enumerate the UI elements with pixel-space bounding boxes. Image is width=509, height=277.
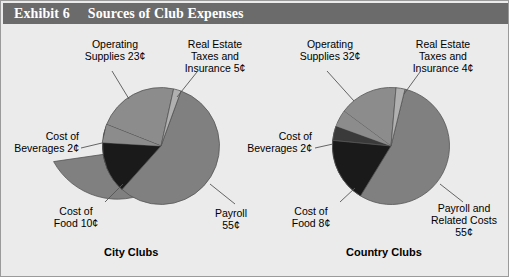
label-line: Supplies 23¢ [63, 50, 167, 62]
label-line: 55¢ [203, 219, 259, 231]
label-line: Cost of [39, 205, 113, 217]
label-line: Taxes and [396, 50, 490, 62]
label-cost-of-food: Cost ofFood 8¢ [276, 205, 346, 229]
pie-chart-country-clubs: OperatingSupplies 32¢ Real EstateTaxes a… [254, 24, 507, 276]
label-cost-of-beverages: Cost ofBeverages 2¢ [0, 130, 79, 154]
leader-line-real-estate [404, 72, 420, 94]
label-line: Payroll [203, 207, 259, 219]
exhibit-number: Exhibit 6 [14, 6, 70, 22]
label-line: Insurance 5¢ [169, 62, 261, 74]
label-line: 55¢ [422, 226, 506, 238]
label-operating-supplies: OperatingSupplies 32¢ [278, 38, 382, 62]
leader-line-operating-supplies [327, 71, 354, 101]
label-line: Supplies 32¢ [278, 50, 382, 62]
label-real-estate-taxes: Real EstateTaxes andInsurance 5¢ [169, 38, 261, 75]
label-line: Operating [63, 38, 167, 50]
label-line: Cost of [0, 130, 79, 142]
label-cost-of-food: Cost ofFood 10¢ [39, 205, 113, 229]
label-line: Operating [278, 38, 382, 50]
label-line: Related Costs [422, 214, 506, 226]
leader-line-food [340, 188, 355, 202]
label-payroll: Payroll55¢ [203, 207, 259, 231]
caption-city-clubs: City Clubs [104, 246, 158, 258]
label-line: Payroll and [422, 202, 506, 214]
charts-container: OperatingSupplies 23¢ Real EstateTaxes a… [1, 24, 508, 276]
leader-line-payroll [210, 184, 235, 204]
label-line: Food 8¢ [276, 217, 346, 229]
label-cost-of-beverages: Cost ofBeverages 2¢ [226, 130, 312, 154]
label-line: Beverages 2¢ [0, 142, 79, 154]
label-line: Cost of [276, 205, 346, 217]
exhibit-title: Sources of Club Expenses [88, 6, 244, 22]
label-real-estate-taxes: Real EstateTaxes andInsurance 4¢ [396, 38, 490, 75]
pie-chart-city-clubs: OperatingSupplies 23¢ Real EstateTaxes a… [1, 24, 254, 276]
label-line: Taxes and [169, 50, 261, 62]
label-line: Real Estate [169, 38, 261, 50]
leader-line-beverages [315, 144, 333, 148]
label-payroll-related-costs: Payroll andRelated Costs55¢ [422, 202, 506, 239]
label-operating-supplies: OperatingSupplies 23¢ [63, 38, 167, 62]
label-line: Cost of [226, 130, 312, 142]
exhibit-figure: Exhibit 6 Sources of Club Expenses [0, 0, 509, 277]
leader-line-payroll [440, 184, 463, 202]
label-line: Food 10¢ [39, 217, 113, 229]
label-line: Beverages 2¢ [226, 142, 312, 154]
caption-country-clubs: Country Clubs [346, 246, 422, 258]
exhibit-header-bar: Exhibit 6 Sources of Club Expenses [3, 3, 508, 24]
leader-line-operating-supplies [112, 71, 129, 99]
label-line: Insurance 4¢ [396, 62, 490, 74]
label-line: Real Estate [396, 38, 490, 50]
leader-line-beverages [81, 143, 102, 148]
